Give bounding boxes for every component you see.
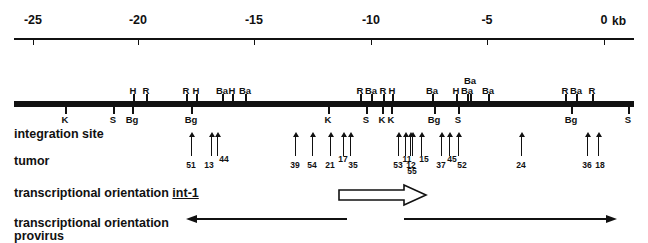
integration-site-tick — [132, 107, 134, 114]
scale-tick — [138, 40, 139, 45]
integration-site-label: K — [388, 114, 395, 125]
tumor-arrow — [343, 136, 344, 156]
integration-site-tick — [458, 107, 460, 114]
tumor-number-label: 37 — [436, 160, 445, 170]
restriction-site-label: H — [229, 85, 236, 96]
scale-tick-label: -25 — [24, 13, 42, 27]
row-label-orientation-int1: transcriptional orientation int-1 — [14, 186, 199, 200]
integration-site-label: S — [625, 114, 631, 125]
tumor-number-label: 17 — [338, 154, 347, 164]
restriction-site-label: H — [389, 85, 396, 96]
genomic-map-figure: -25-20-15-10-50 kb HRRHBaHBaRBaRHBaHBaBa… — [0, 0, 648, 243]
orientation-int1-prefix: transcriptional orientation — [14, 186, 172, 200]
int1-arrow-shape — [339, 185, 426, 205]
scale-tick — [371, 40, 372, 45]
integration-site-tick — [328, 107, 330, 114]
tumor-arrow — [421, 136, 422, 156]
tumor-number-label: 35 — [348, 160, 357, 170]
restriction-site-label: Ba — [239, 85, 251, 96]
tumor-arrow — [312, 136, 313, 156]
tumor-arrow — [587, 136, 588, 156]
provirus-right-arrow-head — [606, 215, 617, 223]
provirus-left-arrow-head — [186, 215, 197, 223]
row-label-tumor: tumor — [14, 154, 49, 168]
chromosome-map-line — [14, 101, 634, 107]
restriction-site-label: Ba — [570, 85, 582, 96]
tumor-number-label: 45 — [447, 154, 456, 164]
tumor-number-label: 15 — [419, 154, 428, 164]
integration-site-tick — [628, 107, 630, 114]
tumor-number-label: 36 — [582, 160, 591, 170]
integration-site-tick — [391, 107, 393, 114]
scale-tick — [33, 40, 34, 45]
tumor-arrow — [295, 136, 296, 156]
restriction-site-label: R — [357, 85, 364, 96]
tumor-arrow — [412, 136, 413, 156]
restriction-site-label: Ba — [216, 85, 228, 96]
tumor-number-label: 44 — [219, 154, 228, 164]
restriction-site-label: R — [589, 85, 596, 96]
integration-site-tick — [191, 107, 193, 114]
scale-tick-label: -5 — [481, 13, 492, 27]
restriction-site-label: R — [562, 85, 569, 96]
restriction-site-label: Ba — [482, 85, 494, 96]
integration-site-tick — [113, 107, 115, 114]
integration-site-tick — [382, 107, 384, 114]
integration-site-label: S — [110, 114, 116, 125]
integration-site-tick — [571, 107, 573, 114]
tumor-number-label: 39 — [290, 160, 299, 170]
tumor-arrow — [211, 136, 212, 156]
scale-tick — [604, 40, 605, 45]
provirus-orientation-arrow-right — [403, 212, 617, 230]
provirus-left-arrow-svg — [186, 212, 348, 226]
tumor-number-label: 53 — [393, 160, 402, 170]
row-label-integration-site: integration site — [14, 127, 104, 141]
scale-tick-label: 0 — [601, 13, 608, 27]
tumor-number-label: 51 — [186, 160, 195, 170]
tumor-arrow — [441, 136, 442, 156]
integration-site-label: K — [62, 114, 69, 125]
restriction-site-label: Ba — [426, 85, 438, 96]
scale-tick-label: -20 — [129, 13, 147, 27]
tumor-number-label: 24 — [516, 160, 525, 170]
restriction-site-label: R — [380, 85, 387, 96]
scale-tick — [487, 40, 488, 45]
integration-site-label: Bg — [565, 114, 578, 125]
integration-site-tick — [366, 107, 368, 114]
tumor-number-label: 13 — [204, 160, 213, 170]
tumor-arrow — [458, 136, 459, 156]
restriction-site-label: Ba — [464, 75, 476, 86]
integration-site-tick — [65, 107, 67, 114]
tumor-number-label: 55 — [407, 166, 416, 176]
tumor-arrow — [598, 136, 599, 156]
restriction-site-label: R — [143, 85, 150, 96]
integration-site-label: S — [455, 114, 461, 125]
provirus-orientation-arrow-left — [186, 212, 348, 230]
restriction-site-label: R — [183, 85, 190, 96]
tumor-arrow — [521, 136, 522, 156]
restriction-site-tick — [470, 94, 472, 101]
kb-unit-label: kb — [612, 14, 626, 28]
scale-axis-line — [14, 38, 634, 40]
provirus-right-arrow-svg — [403, 212, 617, 226]
restriction-site-label: H — [193, 85, 200, 96]
tumor-arrow — [449, 136, 450, 156]
gene-name-int1: int-1 — [172, 186, 198, 200]
int1-orientation-arrow — [338, 183, 428, 211]
integration-site-label: K — [325, 114, 332, 125]
tumor-arrow — [398, 136, 399, 156]
tumor-arrow — [191, 136, 192, 156]
tumor-arrow — [330, 136, 331, 156]
scale-tick — [254, 40, 255, 45]
tumor-arrow — [350, 136, 351, 156]
integration-site-label: Bg — [126, 114, 139, 125]
integration-site-label: Bg — [428, 114, 441, 125]
scale-tick-label: -15 — [245, 13, 263, 27]
tumor-number-label: 52 — [457, 160, 466, 170]
restriction-site-label: H — [130, 85, 137, 96]
row-label-orientation-provirus-line2: provirus — [14, 229, 64, 243]
restriction-site-label: H — [453, 85, 460, 96]
row-label-orientation-provirus-line1: transcriptional orientation — [14, 216, 169, 230]
tumor-number-label: 54 — [307, 160, 316, 170]
integration-site-tick — [434, 107, 436, 114]
